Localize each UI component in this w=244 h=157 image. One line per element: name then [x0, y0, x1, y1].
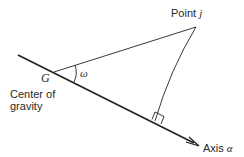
- axis-label-text: Axis: [203, 142, 227, 154]
- angle-arc-icon: [74, 65, 76, 82]
- cog-label-line2: gravity: [10, 100, 42, 112]
- point-label-text: Point: [171, 7, 199, 19]
- point-var: j: [199, 7, 202, 19]
- axis-var: α: [227, 142, 233, 154]
- diagram-canvas: [0, 0, 244, 157]
- cog-label-line1: Center of: [10, 88, 55, 100]
- axis-label: Axis α: [203, 142, 233, 154]
- angle-omega-label: ω: [80, 67, 88, 79]
- vertex-g-label: G: [41, 72, 50, 84]
- perpendicular-line: [155, 27, 196, 121]
- point-j-label: Point j: [171, 7, 202, 19]
